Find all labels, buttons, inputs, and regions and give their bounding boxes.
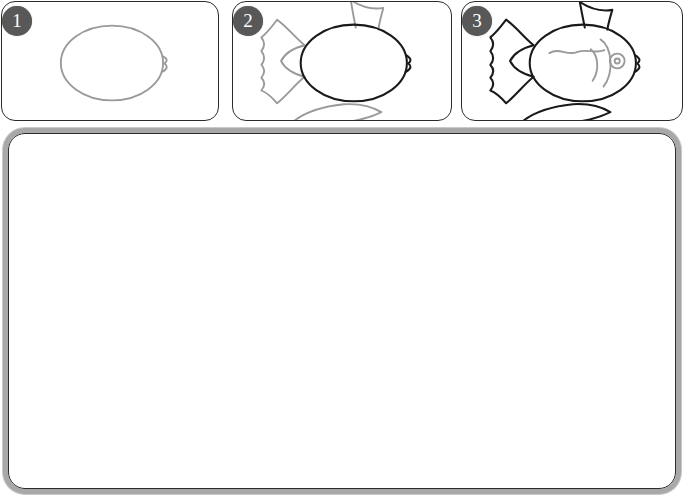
gill-curve-outer-guide xyxy=(601,39,611,86)
step-badge-3: 3 xyxy=(462,6,492,36)
gill-curve-inner-guide xyxy=(591,49,598,80)
tutorial-page: 1 2 3 xyxy=(0,0,684,498)
step-badge-1: 1 xyxy=(2,6,32,36)
step-badge-2: 2 xyxy=(233,6,263,36)
tail-fin-guide xyxy=(261,20,304,104)
step-panel-1[interactable] xyxy=(1,1,219,121)
body-wave-line-guide xyxy=(549,50,604,53)
bottom-fin-active xyxy=(522,104,611,120)
body-oval-active xyxy=(301,25,407,102)
step-3-artwork xyxy=(462,2,682,120)
bottom-fin-guide xyxy=(293,104,381,120)
drawing-canvas[interactable] xyxy=(11,136,673,486)
step-strip: 1 2 3 xyxy=(0,0,684,124)
body-oval-guide xyxy=(61,26,163,101)
eye-guide xyxy=(610,54,625,69)
step-2-artwork xyxy=(233,2,451,120)
drawing-canvas-frame[interactable] xyxy=(3,128,681,494)
step-1-artwork xyxy=(2,2,218,120)
tail-fin-active xyxy=(490,20,533,104)
step-panel-3[interactable] xyxy=(461,1,683,121)
drawing-canvas-inner xyxy=(8,133,676,489)
step-panel-2[interactable] xyxy=(232,1,452,121)
eye-pupil-guide xyxy=(615,58,620,63)
